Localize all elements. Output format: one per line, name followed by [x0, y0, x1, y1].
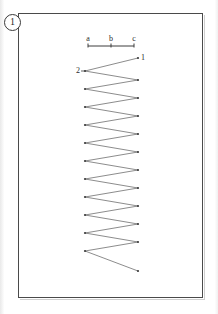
scan-path-vertex	[137, 241, 139, 243]
scan-path-vertex	[84, 232, 86, 234]
scan-path-vertex	[84, 178, 86, 180]
scan-path-vertex	[137, 115, 139, 117]
scan-path-vertex	[137, 79, 139, 81]
diagram-canvas	[0, 0, 218, 314]
scan-path-vertex	[84, 214, 86, 216]
scan-path-vertex	[84, 160, 86, 162]
scan-path-vertex	[137, 133, 139, 135]
scan-path-vertex	[137, 57, 139, 59]
scan-path-vertex	[137, 187, 139, 189]
scan-path-vertex	[137, 97, 139, 99]
scan-path-vertex	[137, 270, 139, 272]
scan-path-polyline	[85, 58, 138, 271]
scan-path-vertex	[137, 151, 139, 153]
scan-path-vertex	[84, 142, 86, 144]
scan-path-vertex	[137, 169, 139, 171]
scan-path-vertex	[84, 88, 86, 90]
scan-path-vertex	[84, 124, 86, 126]
scan-path-vertex	[84, 196, 86, 198]
scan-path-vertex	[84, 250, 86, 252]
scan-path-vertex	[137, 223, 139, 225]
scan-path-vertex	[137, 205, 139, 207]
figure-page: 1 a b c 1 2	[0, 0, 218, 314]
scan-path-vertex	[84, 106, 86, 108]
